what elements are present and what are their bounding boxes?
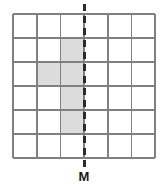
symmetry-grid-figure: M xyxy=(0,0,164,184)
shaded-cell xyxy=(37,62,61,86)
grid-diagram-canvas xyxy=(0,0,164,184)
shaded-cell xyxy=(60,62,84,86)
mirror-line-label: M xyxy=(64,170,104,183)
shaded-cell xyxy=(60,86,84,110)
shaded-cell xyxy=(60,110,84,134)
shaded-cell xyxy=(60,38,84,62)
